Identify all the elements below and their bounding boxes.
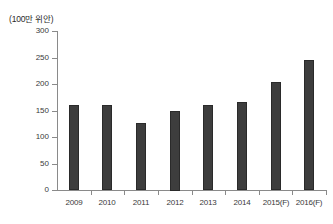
bar xyxy=(170,111,180,191)
y-tick-mark xyxy=(52,111,57,112)
y-tick-label: 150 xyxy=(19,106,49,115)
bar xyxy=(203,105,213,190)
y-tick-label: 0 xyxy=(19,185,49,194)
bar xyxy=(136,123,146,190)
x-tick-mark xyxy=(158,190,159,195)
x-tick-mark xyxy=(326,190,327,195)
bar xyxy=(304,60,314,190)
x-tick-mark xyxy=(259,190,260,195)
bar xyxy=(69,105,79,190)
x-tick-mark xyxy=(91,190,92,195)
y-tick-mark xyxy=(52,31,57,32)
y-tick-label: 200 xyxy=(19,79,49,88)
y-tick-mark xyxy=(52,58,57,59)
x-tick-mark xyxy=(192,190,193,195)
x-tick-label: 2015(F) xyxy=(263,198,290,207)
y-tick-mark xyxy=(52,137,57,138)
x-tick-label: 2010 xyxy=(99,198,116,207)
y-axis-unit-label: (100만 위안) xyxy=(9,12,53,24)
y-tick-mark xyxy=(52,164,57,165)
y-tick-label: 250 xyxy=(19,53,49,62)
x-tick-label: 2009 xyxy=(66,198,83,207)
bar xyxy=(237,102,247,190)
x-tick-label: 2014 xyxy=(234,198,251,207)
x-tick-mark xyxy=(124,190,125,195)
y-tick-label: 300 xyxy=(19,26,49,35)
bar xyxy=(271,82,281,190)
y-tick-label: 50 xyxy=(19,159,49,168)
x-tick-mark xyxy=(225,190,226,195)
x-tick-label: 2012 xyxy=(167,198,184,207)
bar-chart: (100만 위안) 050100150200250300 20092010201… xyxy=(0,0,333,224)
x-tick-label: 2011 xyxy=(133,198,149,207)
x-tick-label: 2013 xyxy=(200,198,217,207)
y-tick-mark xyxy=(52,190,57,191)
x-tick-label: 2016(F) xyxy=(296,198,323,207)
y-tick-label: 100 xyxy=(19,132,49,141)
bar xyxy=(102,105,112,190)
x-tick-mark xyxy=(292,190,293,195)
y-axis-line xyxy=(57,31,58,191)
y-tick-mark xyxy=(52,84,57,85)
